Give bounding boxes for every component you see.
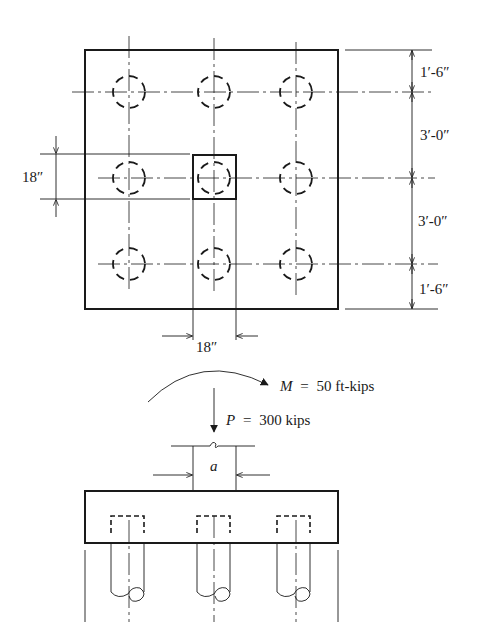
bottom-dimension-label: 18″ bbox=[196, 339, 217, 355]
pile-elevation bbox=[197, 516, 230, 622]
footing-elevation bbox=[85, 491, 338, 543]
load-label: P = 300 kips bbox=[225, 412, 311, 428]
pile-elevation bbox=[111, 516, 144, 622]
bottom-column-dimension: 18″ bbox=[162, 200, 258, 355]
dimension-label-upper-middle: 3′-0″ bbox=[420, 127, 450, 143]
column-stub: a bbox=[153, 442, 270, 490]
plan-row-centerlines bbox=[72, 92, 438, 264]
moment-arrow bbox=[148, 371, 268, 402]
dimension-label-lower-middle: 3′-0″ bbox=[418, 213, 448, 229]
dimension-label-bottom: 1′-6″ bbox=[419, 281, 449, 297]
elevation-view: M = 50 ft-kips P = 300 kips a bbox=[85, 371, 375, 622]
left-column-dimension: 18″ bbox=[22, 136, 190, 217]
footing-plan-outline bbox=[85, 50, 338, 309]
right-dimension-chain: 1′-6″ 3′-0″ 3′-0″ 1′-6″ bbox=[345, 50, 450, 309]
dimension-label-top: 1′-6″ bbox=[420, 64, 450, 80]
plan-column-centerlines bbox=[129, 36, 296, 298]
left-dimension-label: 18″ bbox=[22, 169, 43, 185]
pile-elevation bbox=[277, 516, 310, 622]
column-dimension-a: a bbox=[210, 458, 218, 474]
plan-view: 18″ 18″ 1′-6″ 3′-0″ 3′-0″ 1′-6″ bbox=[22, 36, 450, 355]
moment-label: M = 50 ft-kips bbox=[279, 378, 375, 394]
pile-cap-diagram: 18″ 18″ 1′-6″ 3′-0″ 3′-0″ 1′-6″ bbox=[0, 0, 494, 622]
